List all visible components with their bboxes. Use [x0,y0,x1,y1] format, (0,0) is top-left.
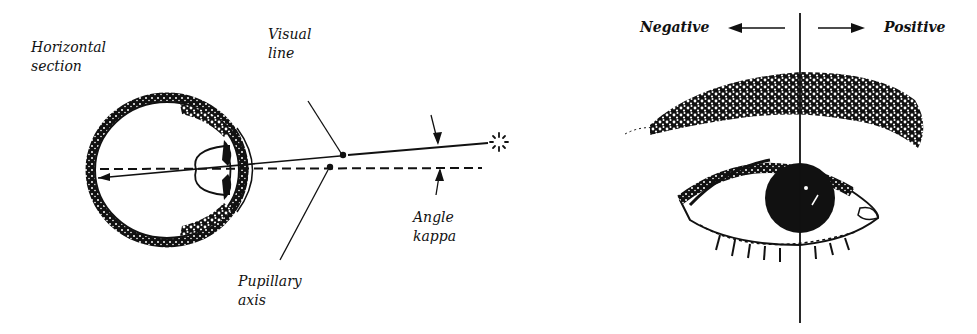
angle-kappa-label: Angle kappa [413,208,456,246]
label-line: Pupillary [238,272,302,291]
negative-label: Negative [640,18,709,37]
eye-diagrams [0,0,977,334]
pupillary-axis-label: Pupillary axis [238,272,302,310]
horizontal-section-label: Horizontal section [31,38,106,76]
eye-drawing [680,160,878,262]
arrow-right-icon [851,23,865,33]
star-fixation-icon [490,133,508,151]
label-line: Visual [268,25,311,44]
arrowhead-icon [98,173,110,181]
arrow-left-icon [728,23,742,33]
visual-line-label: Visual line [268,25,311,63]
direction-arrows [728,23,865,33]
eyeball-section [90,97,253,243]
label-line: kappa [413,227,456,246]
label-line: section [31,57,106,76]
label-line: Angle [413,208,456,227]
eyebrow [625,72,923,148]
label-line: line [268,44,311,63]
label-line: Horizontal [31,38,106,57]
label-line: axis [238,291,302,310]
pupillary-axis-line [100,168,482,169]
positive-label: Positive [884,18,946,37]
